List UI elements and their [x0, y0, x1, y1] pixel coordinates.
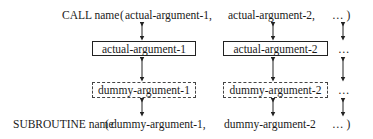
- connector-arrows: [0, 0, 373, 139]
